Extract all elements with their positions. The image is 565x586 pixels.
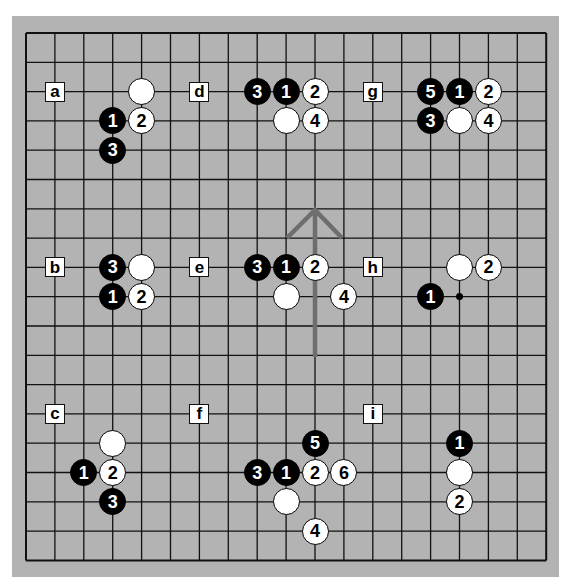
black-stone: 1 (273, 254, 300, 281)
black-stone: 1 (446, 78, 473, 105)
white-stone: 2 (475, 254, 502, 281)
white-stone (273, 488, 300, 515)
white-stone: 4 (302, 518, 329, 545)
white-stone (99, 430, 126, 457)
diagram-label-c: c (45, 404, 65, 424)
diagram-label-g: g (363, 82, 383, 102)
black-stone: 5 (417, 78, 444, 105)
black-stone: 3 (244, 459, 271, 486)
black-stone: 1 (273, 78, 300, 105)
white-stone (128, 254, 155, 281)
white-stone (273, 107, 300, 134)
white-stone (128, 78, 155, 105)
white-stone: 2 (302, 78, 329, 105)
diagram-label-b: b (45, 257, 65, 277)
diagram-label-a: a (45, 82, 65, 102)
black-stone: 1 (446, 430, 473, 457)
diagram-label-d: d (189, 82, 209, 102)
black-stone: 3 (99, 254, 126, 281)
white-stone (446, 459, 473, 486)
black-stone: 5 (302, 430, 329, 457)
diagram-label-e: e (189, 257, 209, 277)
white-stone: 4 (302, 107, 329, 134)
black-stone: 1 (273, 459, 300, 486)
up-arrow-icon (287, 210, 342, 357)
diagram-label-i: i (363, 404, 383, 424)
white-stone (446, 254, 473, 281)
white-stone: 2 (475, 78, 502, 105)
white-stone: 2 (302, 459, 329, 486)
white-stone: 2 (99, 459, 126, 486)
white-stone (273, 283, 300, 310)
diagram-label-f: f (189, 404, 209, 424)
black-stone: 3 (99, 137, 126, 164)
black-stone: 3 (244, 254, 271, 281)
diagram-label-h: h (363, 257, 383, 277)
black-stone: 3 (244, 78, 271, 105)
white-stone: 2 (302, 254, 329, 281)
